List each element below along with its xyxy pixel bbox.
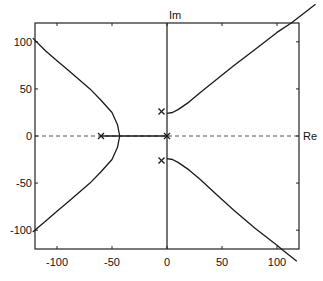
- x-axis-label: Re: [303, 130, 317, 142]
- axis-ticks: -100-50050100100500-50-100: [10, 23, 299, 268]
- branch-right-lower: [167, 159, 297, 262]
- pole-x-icon: [159, 109, 165, 115]
- x-tick-label: 0: [164, 256, 170, 268]
- y-tick-label: -100: [10, 224, 32, 236]
- locus-branches: [33, 4, 316, 261]
- x-tick-label: -50: [104, 256, 120, 268]
- branch-left-upper: [33, 38, 120, 136]
- y-tick-label: 50: [20, 83, 32, 95]
- x-tick-label: 50: [216, 256, 228, 268]
- y-tick-label: -50: [16, 177, 32, 189]
- y-tick-label: 0: [26, 130, 32, 142]
- branch-left-lower: [33, 136, 120, 232]
- y-axis-label: Im: [169, 9, 181, 21]
- x-tick-label: -100: [46, 256, 68, 268]
- pole-x-icon: [159, 157, 165, 163]
- y-tick-label: 100: [14, 36, 32, 48]
- x-tick-label: 100: [268, 256, 286, 268]
- branch-right-upper: [167, 4, 316, 113]
- root-locus-chart: -100-50050100100500-50-100 Re Im: [0, 0, 323, 281]
